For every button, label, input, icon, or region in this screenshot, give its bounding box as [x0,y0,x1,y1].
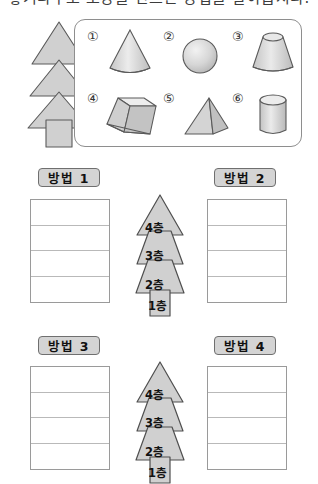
method-label-2: 방법 2 [214,168,276,187]
answer-table-4[interactable] [207,366,287,470]
table-row[interactable] [31,277,109,303]
sphere-icon [180,36,220,80]
pyramid-icon [179,94,233,144]
heading-strip: 쌓기나무로 모양을 만드는 방법을 알아봅시다. [0,0,318,14]
shape-number-1: ① [87,30,99,43]
table-row[interactable] [31,444,109,470]
truncated-cone-icon [248,29,298,83]
shapes-panel: ① ② [74,19,302,147]
table-row[interactable] [208,251,286,277]
truncated-prism-icon [104,92,162,144]
answer-table-1[interactable] [30,199,110,303]
table-row[interactable] [208,418,286,444]
page-heading: 쌓기나무로 모양을 만드는 방법을 알아봅시다. [8,0,310,7]
floor-label-2: 2층 [145,443,164,459]
floor-tree-top: 4층 3층 2층 1층 [121,192,199,317]
table-row[interactable] [31,251,109,277]
floor-label-3: 3층 [145,414,164,430]
floor-label-3: 3층 [145,247,164,263]
table-row[interactable] [208,200,286,226]
floor-tree-bottom: 4층 3층 2층 1층 [121,359,199,484]
floor-label-1: 1층 [148,464,167,480]
floor-label-4: 4층 [145,386,164,402]
table-row[interactable] [31,393,109,419]
table-row[interactable] [208,393,286,419]
table-row[interactable] [208,367,286,393]
table-row[interactable] [208,277,286,303]
worksheet-page: 쌓기나무로 모양을 만드는 방법을 알아봅시다. ① [0,0,318,484]
table-row[interactable] [31,200,109,226]
method-label-1: 방법 1 [38,168,100,187]
table-row[interactable] [208,226,286,252]
table-row[interactable] [208,444,286,470]
table-row[interactable] [31,226,109,252]
shape-number-5: ⑤ [163,92,175,105]
table-row[interactable] [31,367,109,393]
cylinder-icon [254,92,292,144]
answer-table-3[interactable] [30,366,110,470]
floor-label-4: 4층 [145,219,164,235]
cone-icon [104,27,156,83]
shape-number-3: ③ [232,30,244,43]
method-label-4: 방법 4 [214,336,276,355]
floor-label-2: 2층 [145,276,164,292]
floor-label-1: 1층 [148,297,167,313]
shape-number-6: ⑥ [232,92,244,105]
table-row[interactable] [31,418,109,444]
shape-number-2: ② [163,30,175,43]
answer-table-2[interactable] [207,199,287,303]
method-label-3: 방법 3 [38,336,100,355]
shape-number-4: ④ [87,92,99,105]
